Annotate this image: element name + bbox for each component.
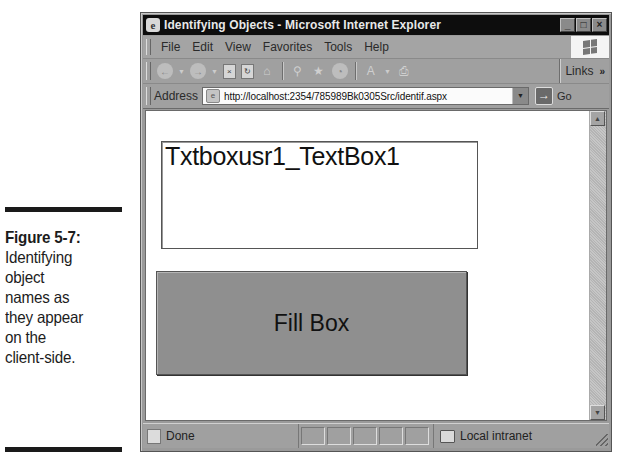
caption-line: on the xyxy=(5,327,125,347)
menu-edit[interactable]: Edit xyxy=(192,40,213,54)
forward-dropdown-icon[interactable]: ▼ xyxy=(211,68,218,75)
caption-line: client-side. xyxy=(5,347,125,367)
resize-grip-icon[interactable] xyxy=(596,434,608,446)
figure-label: Figure 5-7: xyxy=(5,227,125,247)
menu-help[interactable]: Help xyxy=(364,40,389,54)
status-pane-empty xyxy=(379,427,403,445)
windows-logo xyxy=(571,36,609,58)
caption-bottom-rule xyxy=(5,447,122,452)
refresh-icon[interactable]: ↻ xyxy=(241,64,254,79)
status-pane-empty xyxy=(301,427,325,445)
local-intranet-icon xyxy=(440,430,455,443)
caption-line: they appear xyxy=(5,307,125,327)
window-title: Identifying Objects - Microsoft Internet… xyxy=(164,18,441,32)
status-pane-empty xyxy=(327,427,351,445)
caption-top-rule xyxy=(5,207,122,212)
toolbar-separator xyxy=(355,62,357,80)
toolbar-grip[interactable] xyxy=(146,62,151,80)
maximize-button[interactable]: □ xyxy=(576,18,591,32)
address-url[interactable]: http://localhost:2354/785989Bk0305Src/id… xyxy=(224,91,447,102)
security-zone: Local intranet xyxy=(433,424,609,448)
caption-text: Figure 5-7: Identifying object names as … xyxy=(5,227,125,367)
menu-view[interactable]: View xyxy=(225,40,251,54)
go-arrow-icon[interactable]: → xyxy=(535,87,553,105)
go-label[interactable]: Go xyxy=(557,90,572,102)
page-content: Txtboxusr1_TextBox1 Fill Box ▲ ▼ xyxy=(145,110,607,421)
windows-flag-icon xyxy=(583,39,597,55)
home-icon[interactable]: ⌂ xyxy=(259,63,275,79)
title-bar[interactable]: e Identifying Objects - Microsoft Intern… xyxy=(143,15,609,35)
fill-box-button[interactable]: Fill Box xyxy=(156,271,467,375)
caption-line: object xyxy=(5,267,125,287)
menu-file[interactable]: File xyxy=(161,40,180,54)
standard-toolbar: ← ▼ → ▼ × ↻ ⌂ ⚲ ★ ◔ A ▼ ⎙ Links » xyxy=(143,59,609,84)
window-controls: _ □ × xyxy=(560,18,607,32)
textbox1-input[interactable]: Txtboxusr1_TextBox1 xyxy=(161,141,478,249)
chevron-right-icon[interactable]: » xyxy=(599,66,605,77)
status-text: Done xyxy=(166,429,195,443)
history-icon[interactable]: ◔ xyxy=(332,63,348,79)
addressbar-grip[interactable] xyxy=(146,87,151,105)
caption-line: Identifying xyxy=(5,247,125,267)
search-icon[interactable]: ⚲ xyxy=(290,63,306,79)
vertical-scrollbar[interactable]: ▲ ▼ xyxy=(589,111,606,420)
status-pane-empty xyxy=(405,427,429,445)
menubar-grip[interactable] xyxy=(146,39,151,55)
done-page-icon xyxy=(147,429,161,444)
menu-tools[interactable]: Tools xyxy=(324,40,352,54)
scroll-down-icon[interactable]: ▼ xyxy=(590,405,605,420)
address-bar: Address e http://localhost:2354/785989Bk… xyxy=(143,84,609,109)
textbox1-value[interactable]: Txtboxusr1_TextBox1 xyxy=(165,142,400,171)
mail-dropdown-icon[interactable]: ▼ xyxy=(384,68,391,75)
menu-bar: File Edit View Favorites Tools Help xyxy=(143,36,609,59)
browser-window: e Identifying Objects - Microsoft Intern… xyxy=(140,12,612,452)
links-label: Links xyxy=(565,64,593,78)
ie-logo-icon: e xyxy=(146,18,160,32)
mail-icon[interactable]: A xyxy=(363,63,379,79)
address-dropdown-icon[interactable]: ▼ xyxy=(512,88,528,104)
links-button[interactable]: Links » xyxy=(559,59,609,83)
back-dropdown-icon[interactable]: ▼ xyxy=(178,68,185,75)
minimize-button[interactable]: _ xyxy=(560,18,575,32)
back-icon[interactable]: ← xyxy=(157,63,173,79)
caption-line: names as xyxy=(5,287,125,307)
print-icon[interactable]: ⎙ xyxy=(396,63,412,79)
status-pane: Done xyxy=(143,424,299,448)
zone-text: Local intranet xyxy=(460,429,532,443)
toolbar-separator xyxy=(282,62,284,80)
stop-icon[interactable]: × xyxy=(223,64,236,79)
figure-caption: Figure 5-7: Identifying object names as … xyxy=(5,207,123,367)
address-input[interactable]: e http://localhost:2354/785989Bk0305Src/… xyxy=(202,87,529,105)
scroll-up-icon[interactable]: ▲ xyxy=(590,111,605,126)
status-pane-empty xyxy=(353,427,377,445)
status-bar: Done Local intranet xyxy=(143,423,609,448)
address-label: Address xyxy=(154,89,198,103)
go-button[interactable]: → Go xyxy=(535,87,572,105)
forward-icon[interactable]: → xyxy=(190,63,206,79)
favorites-icon[interactable]: ★ xyxy=(311,63,327,79)
page-icon: e xyxy=(206,89,220,103)
close-button[interactable]: × xyxy=(592,18,607,32)
menu-favorites[interactable]: Favorites xyxy=(263,40,312,54)
